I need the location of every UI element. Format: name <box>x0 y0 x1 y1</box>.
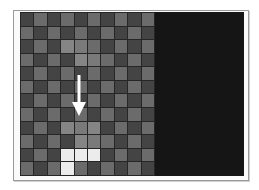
board-cell <box>48 135 60 148</box>
board-cell <box>115 40 127 53</box>
board-cell <box>88 162 100 175</box>
board-cell <box>21 27 33 40</box>
board-cell <box>142 135 154 148</box>
board-cell <box>115 94 127 107</box>
board-cell <box>21 67 33 80</box>
piece-block <box>61 162 73 175</box>
board-cell <box>75 27 87 40</box>
board-cell <box>34 149 46 162</box>
board-cell <box>142 27 154 40</box>
board-cell <box>115 81 127 94</box>
board-cell <box>142 40 154 53</box>
board-cell <box>61 122 73 135</box>
board-cell <box>48 54 60 67</box>
board-cell <box>48 162 60 175</box>
board-cell <box>101 122 113 135</box>
board-cell <box>75 162 87 175</box>
board-cell <box>115 27 127 40</box>
board-cell <box>142 81 154 94</box>
board-cell <box>21 122 33 135</box>
board-cell <box>142 13 154 26</box>
board-cell <box>128 94 140 107</box>
board-cell <box>48 67 60 80</box>
board-cell <box>142 108 154 121</box>
board-cell <box>142 94 154 107</box>
board-cell <box>128 67 140 80</box>
board-cell <box>101 54 113 67</box>
board-cell <box>115 54 127 67</box>
board-cell <box>61 40 73 53</box>
board-cell <box>21 162 33 175</box>
board-cell <box>34 54 46 67</box>
board-cell <box>21 40 33 53</box>
board-cell <box>88 13 100 26</box>
board-cell <box>88 108 100 121</box>
board-cell <box>88 122 100 135</box>
piece-block <box>88 149 100 162</box>
board-cell <box>128 122 140 135</box>
side-panel <box>155 12 244 176</box>
board-cell <box>75 135 87 148</box>
board-cell <box>115 13 127 26</box>
board-cell <box>48 149 60 162</box>
board-cell <box>88 27 100 40</box>
board-cell <box>61 13 73 26</box>
board-cell <box>21 81 33 94</box>
board-cell <box>61 54 73 67</box>
board-cell <box>21 149 33 162</box>
board-cell <box>34 135 46 148</box>
board-cell <box>101 81 113 94</box>
board-cell <box>34 67 46 80</box>
board-cell <box>34 81 46 94</box>
board-cell <box>128 81 140 94</box>
piece-block <box>61 149 73 162</box>
board-cell <box>48 27 60 40</box>
game-board[interactable] <box>20 12 155 176</box>
board-cell <box>115 122 127 135</box>
board-cell <box>88 135 100 148</box>
board-cell <box>21 94 33 107</box>
board-cell <box>88 94 100 107</box>
piece-block <box>75 149 87 162</box>
board-cell <box>34 13 46 26</box>
board-cell <box>75 40 87 53</box>
board-cell <box>128 135 140 148</box>
board-cell <box>61 135 73 148</box>
board-cell <box>21 108 33 121</box>
board-cell <box>115 149 127 162</box>
board-cell <box>34 40 46 53</box>
board-cell <box>88 67 100 80</box>
board-cell <box>21 135 33 148</box>
board-cell <box>21 54 33 67</box>
board-cell <box>101 13 113 26</box>
board-cell <box>142 122 154 135</box>
board-cell <box>128 13 140 26</box>
board-cell <box>101 149 113 162</box>
board-cell <box>101 94 113 107</box>
board-cell <box>101 27 113 40</box>
board-cell <box>88 81 100 94</box>
board-cell <box>115 162 127 175</box>
board-cell <box>75 54 87 67</box>
board-cell <box>34 94 46 107</box>
board-cell <box>128 108 140 121</box>
board-cell <box>48 94 60 107</box>
board-cell <box>142 54 154 67</box>
board-cell <box>88 40 100 53</box>
board-cell <box>61 27 73 40</box>
board-cell <box>115 108 127 121</box>
board-cell <box>34 27 46 40</box>
board-cell <box>142 149 154 162</box>
board-cell <box>101 162 113 175</box>
board-cell <box>142 162 154 175</box>
board-cell <box>101 40 113 53</box>
board-cell <box>48 108 60 121</box>
board-cell <box>48 81 60 94</box>
board-cell <box>128 54 140 67</box>
board-cell <box>48 13 60 26</box>
board-cell <box>101 135 113 148</box>
board-cell <box>128 40 140 53</box>
board-cell <box>75 13 87 26</box>
board-cell <box>48 40 60 53</box>
board-cell <box>128 27 140 40</box>
